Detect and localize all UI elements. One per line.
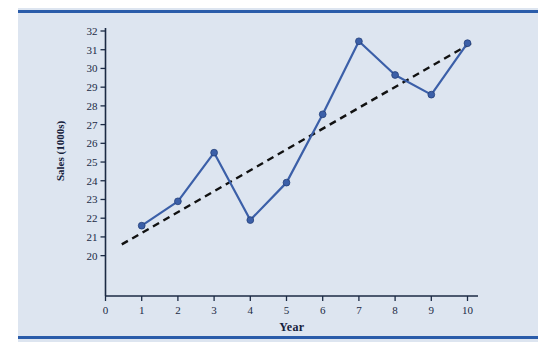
y-tick-label: 25	[78, 156, 98, 168]
y-tick-label: 31	[78, 44, 98, 56]
x-axis-label: Year	[279, 320, 304, 335]
y-tick-label: 23	[78, 193, 98, 205]
chart-figure: Sales (1000s) Year 202122232425262728293…	[0, 0, 545, 348]
x-tick-label: 7	[356, 304, 362, 316]
x-tick-label: 9	[429, 304, 435, 316]
trend-line	[122, 43, 471, 244]
y-tick-label: 20	[78, 250, 98, 262]
y-tick-label: 22	[78, 212, 98, 224]
x-tick-label: 4	[248, 304, 254, 316]
y-tick-label: 21	[78, 231, 98, 243]
y-tick-label: 28	[78, 100, 98, 112]
sales-line	[142, 41, 468, 225]
y-tick-label: 29	[78, 81, 98, 93]
y-axis-label: Sales (1000s)	[54, 121, 66, 181]
axes	[101, 28, 479, 301]
x-tick-label: 6	[320, 304, 326, 316]
x-tick-label: 1	[139, 304, 145, 316]
y-tick-label: 24	[78, 175, 98, 187]
y-tick-label: 26	[78, 137, 98, 149]
y-tick-label: 27	[78, 119, 98, 131]
data-point-markers	[138, 38, 471, 229]
x-tick-label: 0	[103, 304, 109, 316]
x-tick-label: 3	[211, 304, 217, 316]
x-tick-label: 2	[175, 304, 181, 316]
x-tick-label: 8	[392, 304, 398, 316]
x-tick-label: 5	[284, 304, 290, 316]
y-tick-label: 32	[78, 25, 98, 37]
x-tick-label: 10	[462, 304, 473, 316]
y-tick-label: 30	[78, 62, 98, 74]
